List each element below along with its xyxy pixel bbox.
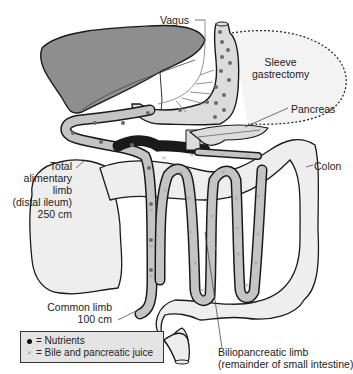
svg-text:×: ×: [245, 152, 250, 159]
svg-text:×: ×: [244, 281, 249, 288]
svg-text:×: ×: [209, 212, 214, 219]
svg-text:×: ×: [220, 168, 225, 175]
x-mark-icon: ×: [27, 347, 34, 359]
svg-text:×: ×: [187, 228, 192, 235]
svg-text:×: ×: [233, 194, 238, 201]
svg-text:×: ×: [253, 259, 258, 266]
label-biliopancreatic-limb: Biliopancreatic limb (remainder of small…: [218, 346, 353, 370]
svg-text:×: ×: [235, 250, 240, 257]
label-vagus: Vagus: [160, 14, 189, 26]
svg-text:×: ×: [178, 169, 183, 176]
svg-text:×: ×: [255, 192, 260, 199]
svg-text:×: ×: [148, 272, 153, 279]
svg-text:×: ×: [189, 151, 194, 158]
svg-text:×: ×: [199, 286, 204, 293]
svg-text:×: ×: [219, 151, 224, 158]
svg-text:×: ×: [212, 244, 217, 251]
pancreas: [190, 125, 268, 145]
svg-text:×: ×: [161, 154, 166, 161]
label-sleeve-gastrectomy: Sleeve gastrectomy: [252, 56, 309, 80]
svg-text:×: ×: [148, 206, 153, 213]
label-common-limb: Common limb 100 cm: [40, 301, 112, 325]
label-colon: Colon: [314, 160, 341, 172]
label-total-alimentary-limb: Total alimentary limb (distal ileum) 250…: [8, 160, 72, 220]
legend-item-nutrients: = Nutrients: [27, 335, 163, 347]
liver: [41, 26, 205, 114]
rectum: [164, 333, 190, 362]
svg-text:×: ×: [162, 186, 167, 193]
svg-text:×: ×: [186, 194, 191, 201]
dot-icon: [27, 339, 32, 344]
legend: = Nutrients × = Bile and pancreatic juic…: [20, 331, 164, 363]
svg-text:×: ×: [234, 224, 239, 231]
anus: [175, 360, 189, 364]
svg-text:×: ×: [192, 259, 197, 266]
legend-item-bile: × = Bile and pancreatic juice: [27, 347, 163, 359]
svg-text:×: ×: [148, 242, 153, 249]
label-pancreas: Pancreas: [291, 103, 335, 115]
svg-text:×: ×: [255, 230, 260, 237]
